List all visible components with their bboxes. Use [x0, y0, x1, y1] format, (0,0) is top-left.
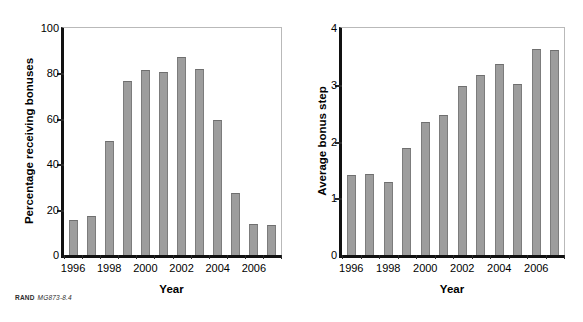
bar — [384, 182, 393, 255]
x-tick-mark — [209, 255, 210, 259]
bar — [495, 64, 504, 255]
x-tick-label: 2002 — [169, 262, 193, 274]
x-tick-label: 1998 — [376, 262, 400, 274]
bar — [532, 49, 541, 255]
x-tick-label: 2000 — [133, 262, 157, 274]
x-tick-mark — [379, 255, 380, 259]
figure-two-panel-bar-charts: 020406080100 199619982000200220042006 Pe… — [0, 0, 583, 322]
y-axis-title-left: Percentage receiving bonuses — [23, 26, 35, 257]
x-axis-title-left: Year — [61, 283, 282, 295]
bar — [347, 175, 356, 255]
x-tick-mark — [527, 255, 528, 259]
x-tick-label: 1996 — [61, 262, 85, 274]
x-tick-mark — [173, 255, 174, 259]
bar — [421, 122, 430, 255]
bar — [123, 81, 132, 255]
bar — [249, 224, 258, 255]
x-tick-mark — [263, 255, 264, 259]
x-tick-mark — [435, 255, 436, 259]
x-tick-mark — [564, 255, 565, 259]
x-tick-mark — [227, 255, 228, 259]
bar — [231, 193, 240, 255]
y-tick-label: 4 — [331, 23, 337, 34]
x-tick-mark — [472, 255, 473, 259]
bar — [105, 141, 114, 255]
bar — [439, 115, 448, 255]
y-tick-label: 0 — [53, 250, 59, 261]
x-tick-mark — [361, 255, 362, 259]
bar — [513, 84, 522, 255]
y-tick-label: 3 — [331, 79, 337, 90]
bar — [550, 50, 559, 255]
x-tick-mark — [398, 255, 399, 259]
bar-series-right — [342, 28, 564, 255]
plot-area-left: 020406080100 199619982000200220042006 — [61, 27, 282, 258]
bar-series-left — [64, 28, 281, 255]
x-axis-title-right: Year — [339, 283, 565, 295]
bar — [402, 148, 411, 255]
x-tick-mark — [416, 255, 417, 259]
y-tick-label: 100 — [41, 23, 59, 34]
y-axis-title-right: Average bonus step — [316, 26, 328, 257]
x-tick-mark — [136, 255, 137, 259]
x-tick-label: 2002 — [450, 262, 474, 274]
bar — [69, 220, 78, 255]
x-tick-mark — [118, 255, 119, 259]
y-tick-label: 80 — [47, 68, 59, 79]
bar — [476, 75, 485, 255]
x-tick-mark — [191, 255, 192, 259]
x-tick-mark — [509, 255, 510, 259]
chart-panel-percentage-receiving-bonuses: 020406080100 199619982000200220042006 Pe… — [0, 0, 300, 322]
y-tick-label: 1 — [331, 193, 337, 204]
bar — [141, 70, 150, 255]
bar — [177, 57, 186, 255]
bar — [458, 86, 467, 255]
x-tick-label: 2000 — [413, 262, 437, 274]
x-tick-mark — [342, 255, 343, 259]
x-tick-label: 1998 — [97, 262, 121, 274]
x-tick-mark — [490, 255, 491, 259]
credit-code: MG873-8.4 — [38, 294, 72, 301]
y-tick-label: 0 — [331, 250, 337, 261]
x-tick-label: 2004 — [487, 262, 511, 274]
y-tick-label: 40 — [47, 159, 59, 170]
y-tick-label: 2 — [331, 136, 337, 147]
y-tick-label: 20 — [47, 204, 59, 215]
x-tick-label: 1996 — [339, 262, 363, 274]
chart-panel-average-bonus-step: 01234 199619982000200220042006 Average b… — [300, 0, 583, 322]
bar — [87, 216, 96, 255]
x-tick-mark — [245, 255, 246, 259]
x-tick-label: 2006 — [524, 262, 548, 274]
x-tick-mark — [100, 255, 101, 259]
bar — [159, 72, 168, 255]
bar — [213, 120, 222, 255]
source-credit: RANDMG873-8.4 — [15, 294, 72, 301]
x-tick-mark — [453, 255, 454, 259]
plot-area-right: 01234 199619982000200220042006 — [339, 27, 565, 258]
credit-brand: RAND — [15, 294, 35, 301]
x-tick-label: 2006 — [242, 262, 266, 274]
y-tick-label: 60 — [47, 113, 59, 124]
x-tick-mark — [154, 255, 155, 259]
x-tick-mark — [281, 255, 282, 259]
bar — [195, 69, 204, 255]
x-tick-mark — [82, 255, 83, 259]
bar — [267, 225, 276, 255]
x-tick-label: 2004 — [205, 262, 229, 274]
x-tick-mark — [64, 255, 65, 259]
bar — [365, 174, 374, 255]
x-tick-mark — [546, 255, 547, 259]
